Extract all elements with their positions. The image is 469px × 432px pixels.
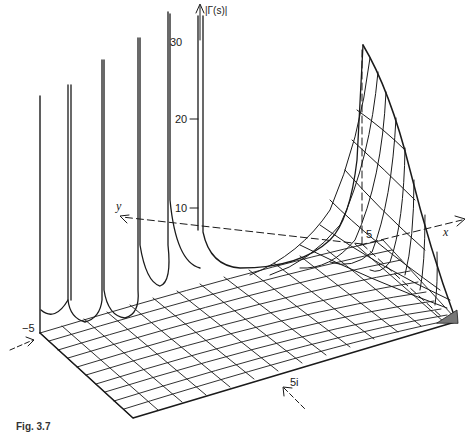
- z-axis-label: |Γ(s)|: [205, 6, 227, 16]
- z-tick-20: 20: [175, 114, 187, 125]
- x-tick-5: 5: [366, 229, 372, 240]
- x-axis: [360, 50, 465, 245]
- z-tick-30: 30: [170, 37, 182, 48]
- pole-spikes: [41, 12, 363, 322]
- z-axis: [190, 4, 204, 208]
- figure-caption: Fig. 3.7: [16, 421, 50, 432]
- x-tick-neg5: −5: [22, 323, 35, 334]
- x-axis-label: x: [443, 226, 448, 238]
- y-axis-label: y: [116, 200, 121, 212]
- y-tick-5i: 5i: [290, 377, 299, 388]
- right-peak-surface: [250, 45, 455, 318]
- z-tick-10: 10: [175, 203, 187, 214]
